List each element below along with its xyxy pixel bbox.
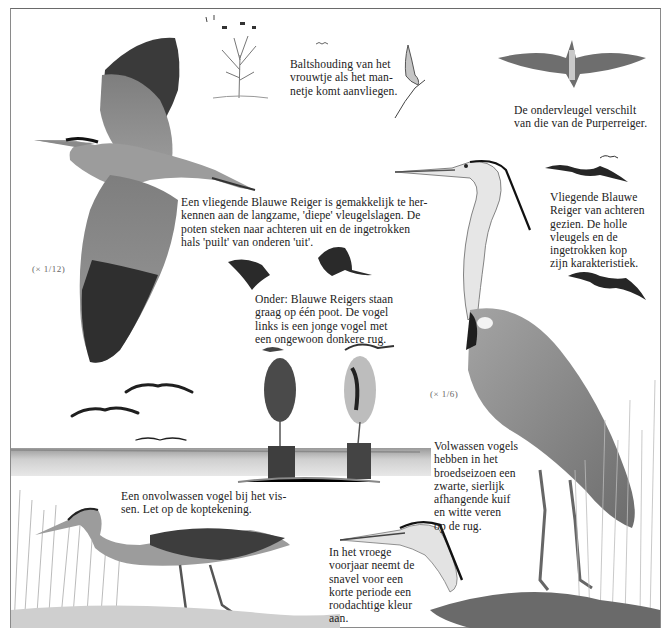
caption-line: op de rug. bbox=[434, 520, 518, 533]
caption-spring: In het vroege voorjaar neemt de snavel v… bbox=[329, 546, 414, 626]
caption-line: van die van de Purperreiger. bbox=[514, 117, 647, 130]
caption-courtship: Baltshouding van het vrouwtje als het ma… bbox=[290, 58, 397, 98]
caption-line: vrouwtje als het man- bbox=[290, 71, 397, 84]
caption-line: Vliegende Blauwe bbox=[550, 191, 645, 204]
caption-from-behind: Vliegende Blauwe Reiger van achteren gez… bbox=[550, 191, 645, 271]
caption-line: hals 'puilt' van onderen 'uit'. bbox=[181, 236, 428, 249]
caption-line: kennen aan de langzame, 'diepe' vleugels… bbox=[181, 209, 428, 222]
caption-line: vleugels en de bbox=[550, 231, 645, 244]
caption-line: hebben in het bbox=[434, 453, 518, 466]
caption-line: In het vroege bbox=[329, 546, 414, 559]
caption-line: netje komt aanvliegen. bbox=[290, 85, 397, 98]
caption-underwing: De ondervleugel verschilt van die van de… bbox=[514, 104, 647, 131]
caption-line: graag op één poot. De vogel bbox=[255, 306, 393, 319]
caption-line: roodachtige kleur bbox=[329, 599, 414, 612]
caption-line: Volwassen vogels bbox=[434, 440, 518, 453]
caption-line: Onder: Blauwe Reigers staan bbox=[255, 293, 393, 306]
caption-line: aan. bbox=[329, 612, 414, 625]
caption-line: broedseizoen een bbox=[434, 467, 518, 480]
caption-line: voorjaar neemt de bbox=[329, 559, 414, 572]
caption-line: zwarte, sierlijk bbox=[434, 480, 518, 493]
caption-line: afhangende kuif bbox=[434, 493, 518, 506]
scale-label-flying: (× 1/12) bbox=[32, 264, 65, 274]
juvenile-fishing-heron-icon bbox=[35, 509, 290, 612]
scale-label-standing: (× 1/6) bbox=[430, 389, 458, 399]
caption-line: snavel voor een bbox=[329, 573, 414, 586]
caption-line: Een onvolwassen vogel bij het vis- bbox=[121, 490, 286, 503]
caption-line: een ongewoon donkere rug. bbox=[255, 333, 393, 346]
caption-line: gezien. De holle bbox=[550, 218, 645, 231]
caption-line: ingetrokken kop bbox=[550, 244, 645, 257]
caption-line: Reiger van achteren bbox=[550, 204, 645, 217]
caption-line: links is een jonge vogel met bbox=[255, 320, 393, 333]
caption-line: De ondervleugel verschilt bbox=[514, 104, 647, 117]
caption-line: Een vliegende Blauwe Reiger is gemakkeli… bbox=[181, 196, 428, 209]
distant-herons-icon bbox=[72, 385, 192, 440]
caption-line: korte periode een bbox=[329, 586, 414, 599]
underwing-heron-icon bbox=[498, 40, 646, 88]
caption-line: Baltshouding van het bbox=[290, 58, 397, 71]
ground-left bbox=[11, 605, 340, 628]
caption-line: zijn karakteristiek. bbox=[550, 257, 645, 270]
caption-flying: Een vliegende Blauwe Reiger is gemakkeli… bbox=[181, 196, 428, 249]
caption-juvenile: Een onvolwassen vogel bij het vis- sen. … bbox=[121, 490, 286, 517]
courtship-heron-icon bbox=[395, 45, 425, 118]
small-flying-herons-icon bbox=[228, 247, 372, 290]
caption-adult: Volwassen vogels hebben in het broedseiz… bbox=[434, 440, 518, 533]
caption-line: poten steken naar achteren uit en de ing… bbox=[181, 223, 428, 236]
caption-one-leg: Onder: Blauwe Reigers staan graag op één… bbox=[255, 293, 393, 346]
caption-line: en witte veren bbox=[434, 506, 518, 519]
caption-line: sen. Let op de koptekening. bbox=[121, 503, 286, 516]
